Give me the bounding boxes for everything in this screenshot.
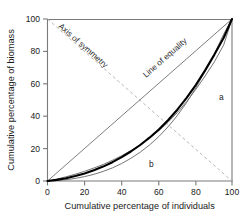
x-tick-label-60: 60	[154, 187, 164, 197]
y-tick-label-60: 60	[30, 79, 40, 89]
y-tick-label-40: 40	[30, 111, 40, 121]
y-tick-label-100: 100	[26, 14, 41, 24]
curve-label-a: a	[219, 92, 224, 102]
y-tick-label-20: 20	[30, 144, 40, 154]
x-tick-label-80: 80	[191, 187, 201, 197]
y-axis-title: Cumulative percentage of biomass	[6, 29, 16, 171]
chart-canvas: 0 20 40 60 80 100 0 20 40 60 80 100 Cumu…	[0, 0, 249, 221]
x-tick-marks	[48, 181, 233, 186]
y-tick-label-80: 80	[30, 46, 40, 56]
lorenz-curve-figure: 0 20 40 60 80 100 0 20 40 60 80 100 Cumu…	[0, 0, 249, 221]
x-tick-label-0: 0	[45, 187, 50, 197]
y-tick-marks	[43, 19, 48, 181]
axis-of-symmetry-label: Axis of symmetry	[57, 22, 110, 70]
curve-label-b: b	[149, 159, 154, 169]
x-axis-title: Cumulative percentage of individuals	[65, 201, 216, 211]
line-of-equality-label: Line of equality	[141, 36, 189, 80]
y-tick-label-0: 0	[35, 176, 40, 186]
x-tick-label-100: 100	[225, 187, 240, 197]
x-tick-label-40: 40	[117, 187, 127, 197]
x-tick-label-20: 20	[80, 187, 90, 197]
